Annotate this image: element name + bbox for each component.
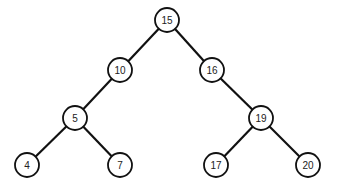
tree-node-16: 16 — [200, 58, 224, 82]
node-label: 10 — [114, 65, 126, 76]
node-label: 17 — [210, 160, 222, 171]
nodes: 15 10 16 5 19 4 7 17 — [15, 8, 320, 177]
tree-node-5: 5 — [63, 106, 87, 130]
tree-diagram: 15 10 16 5 19 4 7 17 — [0, 0, 337, 188]
tree-node-7: 7 — [108, 153, 132, 177]
tree-node-4: 4 — [15, 153, 39, 177]
tree-node-17: 17 — [204, 153, 228, 177]
node-label: 16 — [206, 65, 218, 76]
node-label: 4 — [24, 160, 30, 171]
node-label: 7 — [117, 160, 123, 171]
tree-node-20: 20 — [296, 153, 320, 177]
node-label: 15 — [161, 15, 173, 26]
tree-node-15: 15 — [155, 8, 179, 32]
node-label: 20 — [302, 160, 314, 171]
tree-node-10: 10 — [108, 58, 132, 82]
tree-node-19: 19 — [249, 106, 273, 130]
node-label: 19 — [255, 113, 267, 124]
node-label: 5 — [72, 113, 78, 124]
edges — [27, 20, 308, 165]
